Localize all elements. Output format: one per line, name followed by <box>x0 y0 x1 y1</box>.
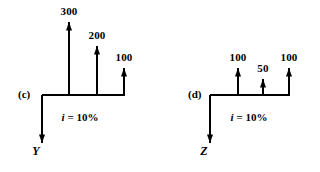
axis-label-z: Z <box>200 145 207 157</box>
inflow-arrow-head-d-1 <box>260 79 266 88</box>
cash-flow-amount-label: 200 <box>88 30 105 41</box>
cash-flow-amount-label: 300 <box>60 6 77 17</box>
cash-flow-amount-label: 100 <box>115 52 132 63</box>
interest-rate-value-c: = 10% <box>65 111 99 123</box>
cash-flow-diagram-figure: (c) i = 10% Y 300 200 100 (d) i = 10% Z … <box>0 0 320 172</box>
inflow-arrow-head-c-1 <box>94 46 100 55</box>
inflow-arrow-head-c-0 <box>66 22 72 31</box>
interest-rate-label-d: i = 10% <box>231 112 268 123</box>
outflow-arrow-head-c <box>39 135 45 144</box>
inflow-arrow-head-c-2 <box>121 68 127 77</box>
interest-rate-label-c: i = 10% <box>62 112 99 123</box>
axis-label-y: Y <box>32 145 39 157</box>
panel-label-c: (c) <box>18 89 30 100</box>
inflow-arrow-head-d-2 <box>286 68 292 77</box>
cash-flow-amount-label: 50 <box>257 63 268 74</box>
inflow-arrow-head-d-0 <box>235 68 241 77</box>
cash-flow-diagram-canvas <box>0 0 320 172</box>
panel-label-d: (d) <box>188 89 201 100</box>
cash-flow-amount-label: 100 <box>229 52 246 63</box>
interest-rate-value-d: = 10% <box>234 111 268 123</box>
outflow-arrow-head-d <box>207 135 213 144</box>
cash-flow-amount-label: 100 <box>280 52 297 63</box>
